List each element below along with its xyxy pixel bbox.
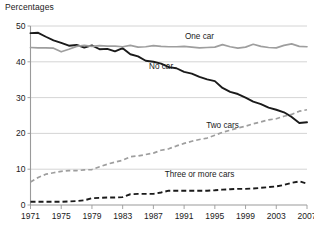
y-tick-label: 40 <box>16 57 26 67</box>
x-tick-label: 1979 <box>82 211 101 221</box>
y-tick-label: 10 <box>16 164 26 174</box>
series-label-three-or-more-cars: Three or more cars <box>165 170 235 179</box>
series-label-two-cars: Two cars <box>206 121 239 130</box>
line-chart-plot: 01020304050 1971197519791983198719911995… <box>0 0 314 243</box>
x-tick-label: 2007 <box>298 211 314 221</box>
x-tick-label: 1999 <box>236 211 255 221</box>
x-tick-label: 1975 <box>52 211 71 221</box>
x-tick-marks-group <box>31 205 308 209</box>
chart-container: Percentages 01020304050 1971197519791983… <box>0 0 314 243</box>
y-tick-labels-group: 01020304050 <box>16 21 26 210</box>
y-tick-label: 20 <box>16 128 26 138</box>
series-annotations-group: One carNo carTwo carsThree or more cars <box>149 32 239 180</box>
x-tick-label: 1987 <box>144 211 163 221</box>
series-line-three-or-more-cars <box>31 181 308 201</box>
series-label-one-car: One car <box>185 32 214 41</box>
x-tick-labels-group: 1971197519791983198719911995199920032007 <box>21 211 314 221</box>
y-tick-label: 30 <box>16 93 26 103</box>
y-tick-label: 50 <box>16 21 26 31</box>
x-tick-label: 1995 <box>205 211 224 221</box>
x-tick-label: 1971 <box>21 211 40 221</box>
x-tick-label: 2003 <box>267 211 286 221</box>
y-tick-label: 0 <box>21 200 26 210</box>
series-label-no-car: No car <box>149 62 173 71</box>
x-tick-label: 1983 <box>113 211 132 221</box>
x-tick-label: 1991 <box>175 211 194 221</box>
